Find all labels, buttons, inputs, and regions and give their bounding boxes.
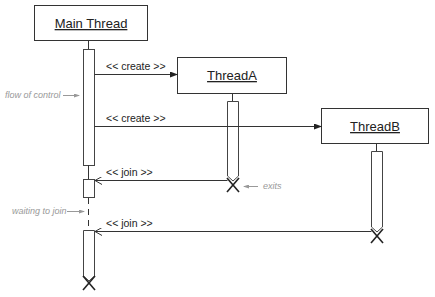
exits-label: exits	[263, 181, 282, 191]
sequence-diagram: Main Thread ThreadA ThreadB << create >>…	[0, 0, 435, 297]
main-activation-2	[84, 180, 95, 198]
object-thread-a: ThreadA	[178, 58, 287, 94]
waiting-to-join-label: waiting to join	[12, 206, 67, 216]
thread-a-label: ThreadA	[207, 68, 257, 83]
flow-of-control-label: flow of control	[5, 90, 62, 100]
note-exits: exits	[244, 181, 282, 191]
message-join-thread-a: << join >>	[95, 166, 228, 181]
message-create-thread-a: << create >>	[95, 60, 178, 75]
note-flow-of-control: flow of control	[5, 90, 79, 100]
object-thread-b: ThreadB	[322, 109, 429, 144]
message-join-thread-b: << join >>	[95, 217, 372, 232]
main-thread-label: Main Thread	[55, 16, 128, 31]
main-activation-1	[84, 50, 95, 166]
note-waiting-to-join: waiting to join	[12, 206, 84, 216]
object-main-thread: Main Thread	[35, 6, 148, 41]
thread-b-activation	[372, 152, 383, 233]
thread-a-activation	[228, 102, 239, 182]
main-activation-3	[84, 231, 95, 282]
thread-b-label: ThreadB	[350, 119, 400, 134]
message-create-thread-b: << create >>	[95, 112, 322, 127]
join-b-label: << join >>	[106, 217, 153, 229]
join-a-label: << join >>	[106, 166, 153, 178]
create-b-label: << create >>	[106, 112, 166, 124]
create-a-label: << create >>	[106, 60, 166, 72]
